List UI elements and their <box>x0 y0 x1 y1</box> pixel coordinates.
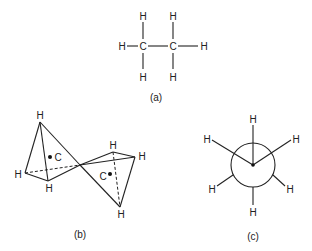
atom-label: H <box>286 184 293 195</box>
atom-label: H <box>203 134 210 145</box>
atom-label: H <box>109 140 116 151</box>
atom-label: H <box>36 110 43 121</box>
panel-caption: (b) <box>74 229 86 240</box>
edge <box>120 157 135 207</box>
atom-label: H <box>45 183 52 194</box>
edge <box>25 122 40 173</box>
atom-label: H <box>169 11 176 22</box>
atom-label: H <box>139 11 146 22</box>
atom-label: H <box>292 134 299 145</box>
rear-bond <box>273 175 285 186</box>
atom-label: H <box>249 114 256 125</box>
ethane-figure: H H H C C H H H (a) H H H C H H H C (b <box>0 0 312 251</box>
atom-label: H <box>139 72 146 83</box>
atom-label: H <box>117 209 124 220</box>
atom-label: C <box>139 41 146 52</box>
panel-caption: (a) <box>150 92 162 103</box>
panel-caption: (c) <box>247 231 259 242</box>
atom-label: H <box>138 151 145 162</box>
edge <box>113 152 135 157</box>
atom-label: H <box>118 41 125 52</box>
atom-label: H <box>200 41 207 52</box>
front-carbon-dot <box>251 163 255 167</box>
atom-label: H <box>169 72 176 83</box>
atom-label: H <box>14 169 21 180</box>
panel-a-structural-formula: H H H C C H H H (a) <box>118 11 207 103</box>
panel-c-newman-projection: H H H H H H (c) <box>203 114 299 242</box>
edge <box>25 173 48 181</box>
carbon-dot <box>108 172 112 176</box>
carbon-dot <box>48 155 52 159</box>
edge <box>40 122 48 181</box>
atom-label: C <box>169 41 176 52</box>
edge <box>80 157 135 165</box>
atom-label: H <box>208 184 215 195</box>
atom-label: C <box>99 171 106 182</box>
atom-label: C <box>54 152 61 163</box>
edge <box>48 165 80 181</box>
panel-b-tetrahedra: H H H C H H H C (b) <box>14 110 145 240</box>
rear-bond <box>217 175 233 186</box>
atom-label: H <box>249 207 256 218</box>
